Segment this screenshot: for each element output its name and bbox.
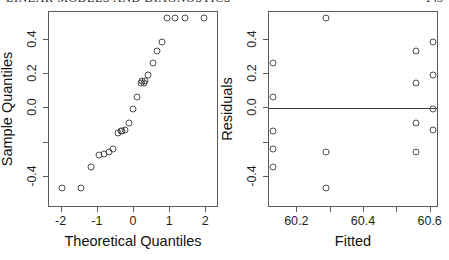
x-axis-tick-label: 60.6 bbox=[417, 214, 441, 228]
y-axis-tick bbox=[263, 107, 268, 108]
residuals-x-axis-title: Fitted bbox=[335, 233, 371, 249]
x-axis-tick-label: 60.4 bbox=[351, 214, 375, 228]
residuals-plot-area bbox=[268, 11, 438, 207]
y-axis-tick-label: 0.2 bbox=[25, 64, 39, 81]
y-axis-tick bbox=[263, 39, 268, 40]
data-point bbox=[59, 185, 66, 192]
x-axis-tick bbox=[133, 207, 134, 212]
data-point bbox=[430, 126, 437, 133]
qq-x-axis-title: Theoretical Quantiles bbox=[64, 233, 201, 249]
x-axis-tick-label: -2 bbox=[55, 214, 66, 228]
x-axis-tick-label: -1 bbox=[91, 214, 102, 228]
x-axis-tick bbox=[169, 207, 170, 212]
x-axis-tick-label: 1 bbox=[166, 214, 173, 228]
data-point bbox=[323, 185, 330, 192]
data-point bbox=[145, 71, 152, 78]
data-point bbox=[88, 164, 95, 171]
data-point bbox=[413, 80, 420, 87]
y-axis-tick bbox=[263, 73, 268, 74]
data-point bbox=[413, 148, 420, 155]
data-point bbox=[323, 148, 330, 155]
y-axis-tick-label: -0.4 bbox=[25, 165, 39, 187]
data-point bbox=[159, 38, 166, 45]
data-point bbox=[270, 145, 277, 152]
y-axis-tick bbox=[43, 39, 48, 40]
y-axis-tick bbox=[43, 176, 48, 177]
x-axis-tick bbox=[205, 207, 206, 212]
x-axis-tick bbox=[296, 207, 297, 212]
data-point bbox=[149, 59, 156, 66]
data-point bbox=[126, 119, 133, 126]
data-point bbox=[77, 185, 84, 192]
data-point bbox=[270, 164, 277, 171]
y-axis-tick-label: 0.0 bbox=[25, 99, 39, 116]
y-axis-tick bbox=[43, 73, 48, 74]
data-point bbox=[182, 14, 189, 21]
data-point bbox=[413, 47, 420, 54]
data-point bbox=[171, 14, 178, 21]
diagnostic-plots-figure: LINEAR MODELS AND DIAGNOSTICS 143 0.40.2… bbox=[0, 0, 449, 260]
x-axis-tick bbox=[396, 207, 397, 212]
y-axis-tick-label: 0.4 bbox=[245, 30, 259, 47]
y-axis-tick bbox=[43, 142, 48, 143]
data-point bbox=[163, 14, 170, 21]
data-point bbox=[110, 145, 117, 152]
data-point bbox=[323, 14, 330, 21]
data-point bbox=[122, 126, 129, 133]
residuals-y-axis-title: Residuals bbox=[219, 77, 235, 141]
y-axis-tick bbox=[263, 142, 268, 143]
x-axis-tick bbox=[330, 207, 331, 212]
y-axis-tick-label: -0.4 bbox=[245, 165, 259, 187]
data-point bbox=[200, 14, 207, 21]
x-axis-tick-label: 0 bbox=[130, 214, 137, 228]
y-axis-tick bbox=[43, 107, 48, 108]
data-point bbox=[142, 78, 149, 85]
x-axis-tick-label: 2 bbox=[202, 214, 209, 228]
qq-y-axis-title: Sample Quantiles bbox=[0, 52, 15, 166]
data-point bbox=[130, 106, 137, 113]
x-axis-tick bbox=[430, 207, 431, 212]
data-point bbox=[270, 59, 277, 66]
y-axis-tick bbox=[263, 176, 268, 177]
data-point bbox=[133, 93, 140, 100]
data-point bbox=[270, 93, 277, 100]
data-point bbox=[430, 38, 437, 45]
x-axis-tick-label: 60.2 bbox=[284, 214, 308, 228]
data-point bbox=[413, 119, 420, 126]
data-point bbox=[430, 106, 437, 113]
data-point bbox=[154, 47, 161, 54]
data-point bbox=[270, 128, 277, 135]
y-axis-tick-label: 0.2 bbox=[245, 64, 259, 81]
x-axis-tick bbox=[363, 207, 364, 212]
qq-plot-panel: 0.40.20.0-0.4-2-1012 Theoretical Quantil… bbox=[0, 0, 225, 260]
data-point bbox=[430, 71, 437, 78]
zero-reference-line bbox=[269, 108, 437, 109]
x-axis-tick bbox=[97, 207, 98, 212]
y-axis-tick-label: 0.4 bbox=[25, 30, 39, 47]
residuals-plot-panel: 0.40.20.0-0.460.260.460.6 Fitted Residua… bbox=[224, 0, 449, 260]
x-axis-tick bbox=[61, 207, 62, 212]
y-axis-tick-label: 0.0 bbox=[245, 99, 259, 116]
